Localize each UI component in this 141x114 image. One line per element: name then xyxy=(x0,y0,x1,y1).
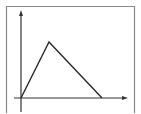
frame-border xyxy=(7,7,135,114)
diagram-canvas xyxy=(0,0,141,113)
y-axis-arrow-icon xyxy=(19,10,23,16)
x-axis-arrow-icon xyxy=(122,96,128,100)
triangle-curve xyxy=(21,42,102,98)
